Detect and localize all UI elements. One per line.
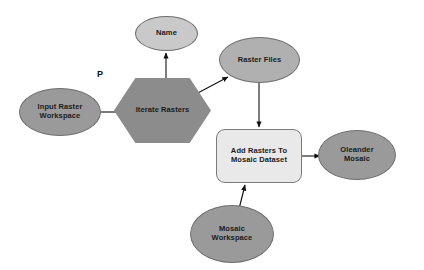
node-oleander-mosaic-output-label: Oleander Mosaic xyxy=(336,146,377,164)
edge-iterate-rasters-to-raster-files xyxy=(194,77,228,95)
node-raster-files-variable-label: Raster Files xyxy=(234,56,286,65)
node-input-raster-workspace-variable[interactable]: Input Raster Workspace xyxy=(19,88,101,136)
node-name-variable-label: Name xyxy=(152,29,181,38)
node-name-variable[interactable]: Name xyxy=(135,16,198,51)
node-add-rasters-to-mosaic-dataset-tool-label: Add Rasters To Mosaic Dataset xyxy=(227,147,291,165)
node-add-rasters-to-mosaic-dataset-tool[interactable]: Add Rasters To Mosaic Dataset xyxy=(216,129,302,183)
node-raster-files-variable[interactable]: Raster Files xyxy=(219,37,300,83)
precondition-marker: P xyxy=(97,69,103,79)
model-diagram-canvas: NameRaster FilesInput Raster WorkspaceIt… xyxy=(0,0,424,270)
node-mosaic-workspace-variable-label: Mosaic Workspace xyxy=(208,225,257,243)
node-mosaic-workspace-variable[interactable]: Mosaic Workspace xyxy=(190,205,274,263)
node-iterate-rasters-iterator[interactable]: Iterate Rasters xyxy=(114,78,211,143)
node-oleander-mosaic-output[interactable]: Oleander Mosaic xyxy=(318,130,396,180)
node-iterate-rasters-iterator-label: Iterate Rasters xyxy=(132,106,194,115)
node-input-raster-workspace-variable-label: Input Raster Workspace xyxy=(34,103,87,121)
